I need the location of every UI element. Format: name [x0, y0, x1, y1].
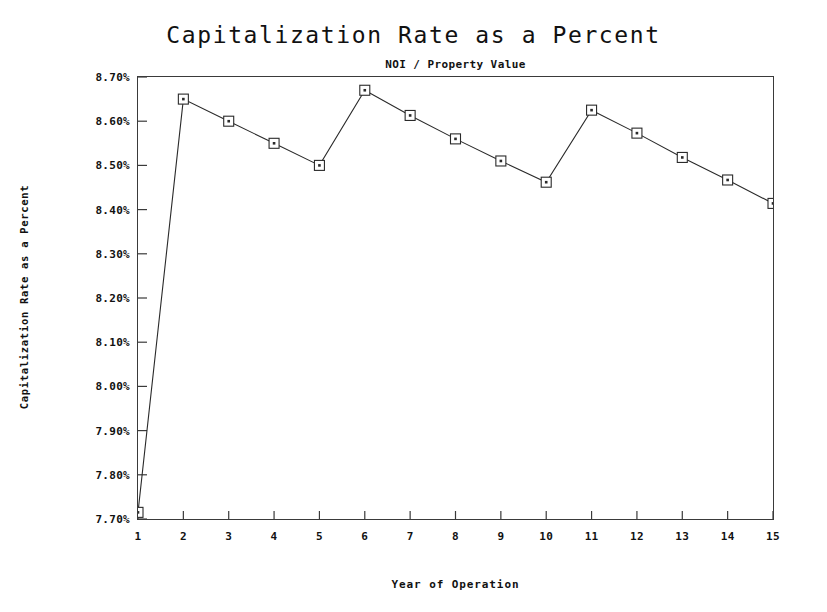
x-axis-tick-label: 1 [118, 530, 158, 543]
y-axis-tick-label: 8.20% [64, 292, 130, 305]
x-axis-tick-label: 14 [708, 530, 748, 543]
x-axis-tick-label: 10 [526, 530, 566, 543]
x-axis-tick-label: 5 [299, 530, 339, 543]
data-point-marker [360, 85, 370, 95]
x-axis-title: Year of Operation [137, 578, 774, 591]
y-axis-tick-label: 8.10% [64, 336, 130, 349]
y-axis-tick-label: 8.40% [64, 203, 130, 216]
y-axis-tick-labels: 7.70%7.80%7.90%8.00%8.10%8.20%8.30%8.40%… [60, 76, 130, 520]
data-point-marker [269, 138, 279, 148]
data-point-marker [677, 152, 687, 162]
x-axis-tick-label: 6 [345, 530, 385, 543]
plot-canvas [138, 77, 773, 519]
y-axis-tick-label: 8.70% [64, 71, 130, 84]
y-axis-tick-label: 8.30% [64, 247, 130, 260]
data-point-marker [768, 198, 773, 208]
page-title: Capitalization Rate as a Percent [0, 22, 827, 48]
x-axis-tick-label: 7 [390, 530, 430, 543]
x-axis-tick-label: 8 [436, 530, 476, 543]
x-axis-tick-label: 12 [617, 530, 657, 543]
x-axis-tick-label: 2 [163, 530, 203, 543]
y-axis-tick-label: 7.70% [64, 513, 130, 526]
x-axis-tick-labels: 123456789101112131415 [137, 530, 774, 550]
chart-subtitle: NOI / Property Value [137, 58, 774, 71]
y-axis-tick-label: 8.60% [64, 115, 130, 128]
data-point-marker [587, 105, 597, 115]
data-point-marker [632, 128, 642, 138]
x-axis-tick-label: 13 [662, 530, 702, 543]
x-axis-tick-label: 11 [572, 530, 612, 543]
data-point-marker [405, 110, 415, 120]
data-point-marker [541, 177, 551, 187]
x-axis-tick-label: 3 [209, 530, 249, 543]
capitalization-rate-chart: Capitalization Rate as a Percent NOI / P… [0, 0, 827, 612]
x-axis-tick-label: 4 [254, 530, 294, 543]
y-axis-tick-label: 8.00% [64, 380, 130, 393]
data-point-marker [224, 116, 234, 126]
data-point-marker [178, 94, 188, 104]
data-point-marker [451, 134, 461, 144]
y-axis-tick-label: 8.50% [64, 159, 130, 172]
data-point-marker [723, 175, 733, 185]
data-point-marker [138, 507, 143, 517]
y-axis-tick-label: 7.80% [64, 468, 130, 481]
x-axis-tick-label: 15 [753, 530, 793, 543]
y-axis-title: Capitalization Rate as a Percent [18, 147, 30, 447]
x-axis-tick-label: 9 [481, 530, 521, 543]
plot-area [137, 76, 774, 520]
y-axis-tick-label: 7.90% [64, 424, 130, 437]
data-point-marker [314, 160, 324, 170]
data-point-marker [496, 156, 506, 166]
